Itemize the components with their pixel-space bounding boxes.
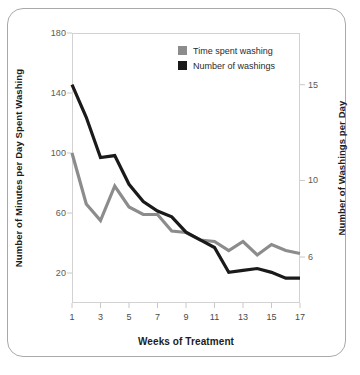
x-tick-label: 3 — [98, 312, 103, 322]
x-tick-label: 15 — [266, 312, 276, 322]
x-tick-label: 9 — [183, 312, 188, 322]
right-axis-ticks — [300, 85, 305, 257]
right-tick-label: 15 — [308, 80, 318, 90]
left-tick-label: 140 — [40, 88, 66, 98]
left-axis-title: Number of Minutes per Day Spent Washing — [13, 69, 24, 267]
chart-figure: 2060100140180 61015 1357911131517 Number… — [0, 0, 360, 375]
left-axis-ticks — [67, 33, 72, 273]
left-tick-label: 20 — [40, 268, 66, 278]
legend-item[interactable]: Time spent washing — [178, 44, 275, 57]
right-tick-label: 10 — [308, 175, 318, 185]
legend-label: Time spent washing — [193, 46, 273, 56]
x-tick-label: 13 — [238, 312, 248, 322]
right-axis-title: Number of Washings per Day — [336, 101, 347, 236]
legend-label: Number of washings — [193, 61, 275, 71]
chart-legend: Time spent washingNumber of washings — [178, 44, 275, 74]
right-tick-label: 6 — [308, 252, 313, 262]
legend-item[interactable]: Number of washings — [178, 59, 275, 72]
x-tick-label: 17 — [295, 312, 305, 322]
x-tick-label: 11 — [210, 312, 220, 322]
left-tick-label: 60 — [40, 208, 66, 218]
x-axis-title: Weeks of Treatment — [138, 336, 234, 347]
x-tick-label: 5 — [126, 312, 131, 322]
series-lines — [72, 85, 300, 278]
left-tick-label: 180 — [40, 28, 66, 38]
legend-swatch-icon — [178, 46, 187, 55]
legend-swatch-icon — [178, 61, 187, 70]
x-tick-label: 7 — [155, 312, 160, 322]
left-tick-label: 100 — [40, 148, 66, 158]
bottom-axis-ticks — [72, 303, 300, 308]
x-tick-label: 1 — [69, 312, 74, 322]
